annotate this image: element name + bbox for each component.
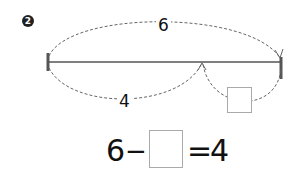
equation-answer-box[interactable] xyxy=(149,130,183,168)
equation-left: 6 xyxy=(106,133,125,169)
equation-equals: = xyxy=(187,133,212,169)
whole-label: 6 xyxy=(156,16,171,34)
diagram-answer-box[interactable] xyxy=(227,87,252,113)
equation-operator: − xyxy=(125,133,147,169)
part-arc-arrowhead xyxy=(198,63,206,70)
whole-arc-arrowhead xyxy=(275,49,283,58)
equation-right: 4 xyxy=(210,133,229,169)
part-label: 4 xyxy=(117,92,132,110)
